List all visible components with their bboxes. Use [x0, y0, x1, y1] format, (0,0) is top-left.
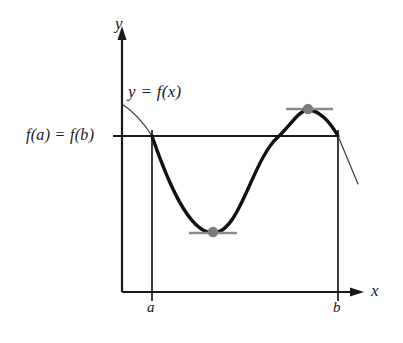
y-axis-label: y [115, 14, 123, 34]
curve-left-extension [122, 104, 152, 136]
local-maximum-marker [286, 104, 333, 114]
axes-group [118, 26, 365, 297]
function-equation-label: y = f(x) [128, 82, 182, 102]
curve-right-extension [338, 136, 358, 184]
curve-main [152, 110, 338, 233]
x-tick-label-a: a [147, 299, 155, 316]
endpoint-equality-label: f(a) = f(b) [26, 126, 94, 144]
critical-point-maximum [303, 104, 313, 114]
function-plot [0, 0, 403, 343]
critical-point-minimum [208, 227, 218, 237]
x-tick-label-b: b [333, 299, 341, 316]
rolles-theorem-figure: y x y = f(x) f(a) = f(b) a b [0, 0, 403, 343]
local-minimum-marker [189, 227, 237, 237]
x-axis-label: x [371, 281, 379, 301]
x-axis-arrowhead [350, 288, 364, 297]
